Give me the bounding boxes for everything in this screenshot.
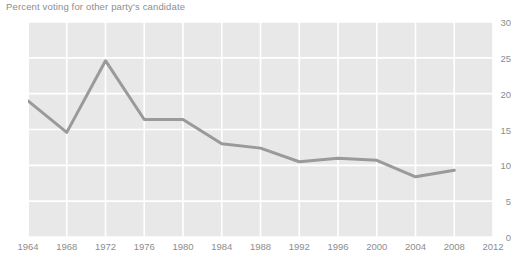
x-tick-label: 1984 [211,241,232,252]
x-tick-label: 2004 [405,241,426,252]
x-tick-label: 2008 [444,241,465,252]
x-tick-label: 1968 [56,241,77,252]
chart-title: Percent voting for other party's candida… [6,1,185,12]
x-tick-label: 1988 [250,241,271,252]
series-line [28,61,454,177]
x-tick-label: 1972 [95,241,116,252]
x-tick-label: 1976 [134,241,155,252]
x-tick-label: 2012 [482,241,503,252]
chart-container: Percent voting for other party's candida… [0,0,511,258]
plot-area [28,22,493,237]
line-series [28,22,493,237]
x-tick-label: 1964 [17,241,38,252]
x-tick-label: 1996 [327,241,348,252]
x-tick-label: 1992 [289,241,310,252]
x-tick-label: 1980 [172,241,193,252]
x-tick-label: 2000 [366,241,387,252]
